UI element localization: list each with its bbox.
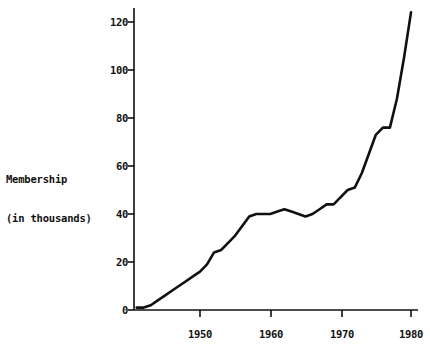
plot-area [0,0,430,352]
membership-line-chart: Membership (in thousands) 0 20 40 60 80 … [0,0,430,352]
y-tick-marks [128,22,134,310]
series-membership-line [137,12,411,307]
x-tick-marks [200,310,411,317]
